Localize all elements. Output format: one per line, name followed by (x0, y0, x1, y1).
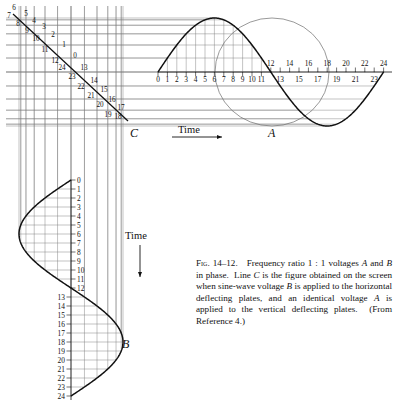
wave-a-tick-label: 23 (371, 75, 379, 84)
wave-a-tick-label: 3 (184, 75, 188, 84)
line-c-point-label: 24 (58, 64, 66, 72)
wave-b-tick-label: 13 (58, 293, 66, 302)
wave-b-tick-label: 15 (58, 311, 66, 320)
wave-b-label: B (122, 337, 129, 352)
wave-a-tick-label: 17 (314, 75, 322, 84)
line-c-point-label: 8 (16, 20, 20, 28)
wave-b-tick-label: 4 (77, 212, 81, 221)
line-c-point-label: 15 (100, 86, 108, 94)
line-c-point-label: 17 (117, 104, 125, 112)
wave-b-tick-label: 8 (77, 248, 81, 257)
line-c-point-label: 1 (62, 41, 66, 49)
wave-a-tick-label: 13 (277, 75, 285, 84)
wave-b-tick-label: 19 (58, 347, 66, 356)
caption-body: Frequency ratio 1 : 1 voltages A and B i… (196, 258, 392, 326)
wave-a-tick-label: 8 (231, 75, 235, 84)
line-c-point-label: 4 (32, 17, 36, 25)
wave-b-tick-label: 3 (77, 203, 81, 212)
wave-a-tick-label: 18 (324, 59, 332, 68)
wave-b-tick-label: 12 (77, 284, 85, 293)
wave-a-tick-label: 19 (333, 75, 341, 84)
line-c-point-label: 19 (104, 111, 112, 119)
line-c-point-label: 22 (77, 83, 85, 91)
wave-a-tick-label: 15 (295, 75, 303, 84)
wave-b-tick-label: 22 (58, 374, 66, 383)
wave-a-tick-label: 2 (175, 75, 179, 84)
line-c-point-label: 6 (12, 4, 16, 12)
wave-b-tick-label: 18 (58, 338, 66, 347)
line-c-point-label: 5 (24, 10, 28, 18)
wave-b-tick-label: 21 (58, 365, 66, 374)
line-c-point-label: 3 (42, 23, 46, 31)
wave-b-tick-label: 23 (58, 383, 66, 392)
wave-a-tick-label: 16 (305, 59, 313, 68)
wave-a-tick-label: 10 (248, 75, 256, 84)
wave-a-tick-label: 24 (380, 59, 388, 68)
wave-a-tick-label: 21 (352, 75, 360, 84)
time-label-horizontal: Time (178, 124, 200, 135)
lissajous-construction-figure: 0123456789101112131415161718192021222324… (0, 0, 396, 412)
wave-b-tick-label: 10 (77, 266, 85, 275)
line-c-point-label: 14 (90, 77, 98, 85)
wave-b-tick-label: 14 (58, 302, 66, 311)
wave-b-tick-label: 7 (77, 239, 81, 248)
line-c-point-label: 2 (51, 31, 55, 39)
line-c-point-label: 7 (7, 12, 11, 20)
time-label-vertical: Time (125, 230, 147, 241)
line-c-point-label: 9 (25, 27, 29, 35)
line-c-point-label: 11 (42, 46, 49, 54)
wave-b-tick-label: 6 (77, 230, 81, 239)
caption-number: Fig. 14–12. (196, 258, 238, 268)
wave-a-tick-label: 14 (286, 59, 294, 68)
line-c-point-label: 10 (32, 35, 40, 43)
wave-a-tick-label: 12 (267, 59, 275, 68)
wave-a-tick-label: 4 (194, 75, 198, 84)
line-c-label: C (130, 126, 138, 141)
wave-b-tick-label: 5 (77, 221, 81, 230)
wave-b-tick-label: 11 (77, 275, 84, 284)
figure-caption: Fig. 14–12. Frequency ratio 1 : 1 voltag… (196, 258, 392, 328)
wave-b-tick-label: 16 (58, 320, 66, 329)
line-c-point-label: 20 (96, 101, 104, 109)
wave-a-tick-label: 22 (361, 59, 369, 68)
line-c-point-label: 23 (68, 73, 76, 81)
line-c-point-label: 13 (80, 64, 88, 72)
wave-b-tick-label: 17 (58, 329, 66, 338)
wave-b-tick-label: 9 (77, 257, 81, 266)
wave-a-label: A (268, 126, 275, 141)
wave-a-tick-label: 9 (241, 75, 245, 84)
wave-a-tick-label: 11 (258, 75, 265, 84)
line-c-point-label: 21 (87, 92, 95, 100)
line-c-point-label: 0 (73, 52, 77, 60)
wave-b-tick-label: 20 (58, 356, 66, 365)
wave-b-tick-label: 2 (77, 194, 81, 203)
line-c-point-label: 16 (108, 96, 116, 104)
wave-a-tick-label: 1 (166, 75, 170, 84)
line-c-point-label: 18 (114, 113, 122, 121)
wave-a-tick-label: 5 (203, 75, 207, 84)
wave-a-tick-label: 7 (222, 75, 226, 84)
wave-a-tick-label: 6 (213, 75, 217, 84)
wave-b-tick-label: 24 (58, 392, 66, 401)
wave-b-tick-label: 1 (77, 185, 81, 194)
wave-b-tick-label: 0 (77, 176, 81, 185)
wave-a-tick-label: 20 (342, 59, 350, 68)
wave-a-tick-label: 0 (156, 75, 160, 84)
